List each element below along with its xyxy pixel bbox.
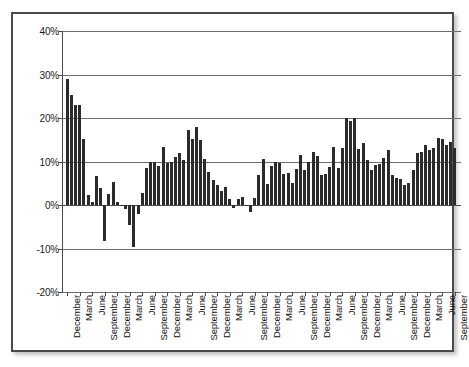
x-tick-label: September [458, 295, 469, 341]
bar [403, 185, 406, 205]
x-tick-label: June [346, 295, 357, 315]
bar [282, 174, 285, 205]
bar [412, 170, 415, 205]
bar [395, 178, 398, 205]
bar [437, 138, 440, 205]
bar [162, 147, 165, 205]
bar [332, 147, 335, 205]
bar [170, 162, 173, 205]
bar [178, 153, 181, 205]
bar [66, 79, 69, 205]
bar [224, 187, 227, 205]
bar [132, 205, 135, 247]
x-tick-label: September [158, 295, 169, 341]
x-tick-label: June [396, 295, 407, 315]
x-tick-label: December [71, 295, 82, 338]
x-tick-label: December [221, 295, 232, 338]
bar [99, 188, 102, 205]
bar [391, 175, 394, 205]
x-tick-label: June [96, 295, 107, 315]
bar [312, 152, 315, 205]
bar [420, 152, 423, 205]
bar [307, 162, 310, 206]
x-tick-label: June [196, 295, 207, 315]
chart-panel: 40%30%20%10%0%-10%-20% DecemberMarchJune… [11, 12, 454, 352]
y-tick-label: 10% [15, 156, 59, 167]
x-tick-label: September [208, 295, 219, 341]
bar [449, 142, 452, 205]
x-tick-label: June [246, 295, 257, 315]
bar [216, 185, 219, 205]
x-tick-label: December [271, 295, 282, 338]
bar [407, 183, 410, 205]
bar [262, 159, 265, 205]
bar [182, 160, 185, 205]
bar [145, 168, 148, 205]
bar [241, 197, 244, 205]
bar [378, 164, 381, 205]
x-tick-label: March [133, 295, 144, 321]
x-tick-label: March [233, 295, 244, 321]
bar [274, 162, 277, 205]
bar [220, 191, 223, 205]
bar [441, 139, 444, 205]
x-axis-labels: DecemberMarchJuneSeptemberDecemberMarchJ… [63, 295, 461, 367]
bar [328, 167, 331, 205]
gridline [63, 118, 461, 119]
bar [70, 95, 73, 205]
bar [237, 199, 240, 205]
bar [124, 205, 127, 209]
bar [228, 199, 231, 205]
bar [424, 145, 427, 205]
x-tick-label: December [321, 295, 332, 338]
x-tick-label: September [108, 295, 119, 341]
bar [257, 175, 260, 205]
bar [357, 149, 360, 205]
bar [374, 165, 377, 205]
x-tick-label: December [121, 295, 132, 338]
x-tick-label: March [433, 295, 444, 321]
x-tick-label: December [421, 295, 432, 338]
bar [103, 205, 106, 241]
bar [362, 143, 365, 205]
bar [345, 118, 348, 205]
bar [195, 127, 198, 205]
y-tick-label: 40% [15, 26, 59, 37]
x-tick-label: September [408, 295, 419, 341]
bar [203, 159, 206, 205]
x-tick-label: March [283, 295, 294, 321]
gridline [63, 292, 461, 293]
bar [253, 198, 256, 205]
bar [212, 180, 215, 205]
y-tick-label: -20% [15, 287, 59, 298]
bar [128, 205, 131, 225]
bar [295, 169, 298, 205]
bar [91, 202, 94, 205]
bar [207, 172, 210, 205]
bar [320, 175, 323, 205]
x-tick-label: December [371, 295, 382, 338]
bar [174, 157, 177, 205]
bar [382, 158, 385, 205]
x-tick-label: June [296, 295, 307, 315]
gridline [63, 249, 461, 250]
y-tick-label: 0% [15, 200, 59, 211]
x-tick-label: September [308, 295, 319, 341]
bar [370, 170, 373, 205]
gridline [63, 75, 461, 76]
bar [349, 121, 352, 205]
bar [341, 148, 344, 205]
y-tick-label: 30% [15, 69, 59, 80]
bar [199, 140, 202, 205]
bar [432, 148, 435, 205]
x-tick-label: March [383, 295, 394, 321]
x-tick-label: September [358, 295, 369, 341]
bar [445, 145, 448, 205]
bar [191, 139, 194, 205]
bar [428, 150, 431, 205]
bar [416, 153, 419, 205]
bar [232, 205, 235, 208]
bar [249, 205, 252, 212]
x-tick-label: March [183, 295, 194, 321]
